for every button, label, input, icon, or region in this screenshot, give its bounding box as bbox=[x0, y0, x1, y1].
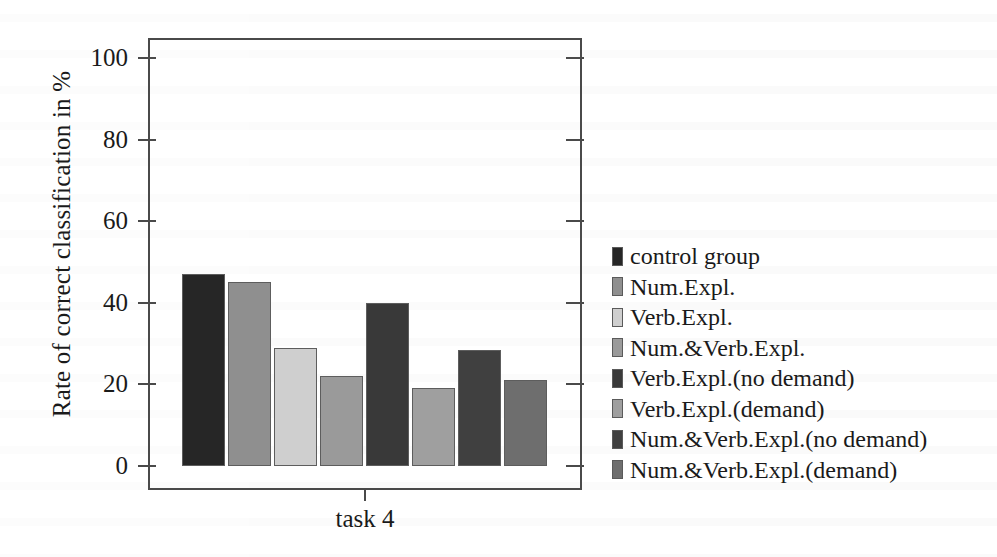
bar bbox=[182, 274, 225, 466]
y-tick-label: 40 bbox=[72, 290, 128, 315]
legend-swatch-icon bbox=[612, 247, 623, 266]
legend-swatch-icon bbox=[612, 430, 623, 449]
y-tick-label: 100 bbox=[72, 45, 128, 70]
bar bbox=[320, 376, 363, 466]
bar bbox=[366, 303, 409, 466]
bar-chart-figure: Rate of correct classification in % 0204… bbox=[0, 0, 997, 557]
legend-item: Verb.Expl.(no demand) bbox=[612, 363, 992, 394]
bar bbox=[274, 348, 317, 466]
bar bbox=[412, 388, 455, 466]
legend-item-label: Num.&Verb.Expl. bbox=[630, 336, 805, 360]
legend-item: Verb.Expl. bbox=[612, 302, 992, 333]
x-axis-label: task 4 bbox=[148, 505, 582, 533]
y-tick-label: 20 bbox=[72, 371, 128, 396]
legend-item-label: Num.&Verb.Expl.(no demand) bbox=[630, 427, 927, 451]
legend-swatch-icon bbox=[612, 369, 623, 388]
bar bbox=[458, 350, 501, 466]
legend-item: Num.&Verb.Expl. bbox=[612, 333, 992, 364]
legend-swatch-icon bbox=[612, 460, 623, 479]
legend-swatch-icon bbox=[612, 308, 623, 327]
legend-item: Num.&Verb.Expl.(demand) bbox=[612, 455, 992, 486]
legend-item-label: Verb.Expl.(demand) bbox=[630, 397, 825, 421]
legend-item: Num.&Verb.Expl.(no demand) bbox=[612, 424, 992, 455]
legend-item-label: Verb.Expl. bbox=[630, 305, 733, 329]
legend-item-label: Num.Expl. bbox=[630, 275, 735, 299]
legend-swatch-icon bbox=[612, 399, 623, 418]
legend-item-label: control group bbox=[630, 244, 760, 268]
bar bbox=[504, 380, 547, 466]
legend-swatch-icon bbox=[612, 338, 623, 357]
legend-item-label: Verb.Expl.(no demand) bbox=[630, 366, 855, 390]
chart-legend: control groupNum.Expl.Verb.Expl.Num.&Ver… bbox=[612, 241, 992, 485]
legend-item: Num.Expl. bbox=[612, 272, 992, 303]
legend-item-label: Num.&Verb.Expl.(demand) bbox=[630, 458, 897, 482]
x-axis-tick bbox=[364, 490, 366, 501]
y-tick-label: 0 bbox=[72, 453, 128, 478]
y-tick-label: 80 bbox=[72, 127, 128, 152]
legend-item: control group bbox=[612, 241, 992, 272]
y-tick-label: 60 bbox=[72, 208, 128, 233]
bar-series bbox=[148, 58, 582, 466]
legend-item: Verb.Expl.(demand) bbox=[612, 394, 992, 425]
bar bbox=[228, 282, 271, 466]
legend-swatch-icon bbox=[612, 277, 623, 296]
